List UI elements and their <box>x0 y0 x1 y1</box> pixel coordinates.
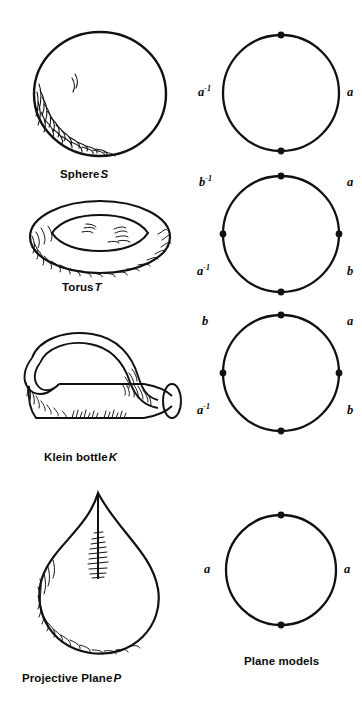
edge-label-letter: a <box>347 85 353 99</box>
torus-plane-model-label-upper-right: a <box>347 176 353 189</box>
projective-plane-plane-model <box>222 511 340 629</box>
plane-model-vertex <box>278 148 285 155</box>
klein-bottle-drawing <box>12 322 190 434</box>
edge-label-exponent: -1 <box>203 402 210 411</box>
torus-plane-model-label-lower-right: b <box>347 265 353 278</box>
sphere-plane-model-label-right: a <box>347 86 353 99</box>
sphere-drawing <box>26 26 176 166</box>
torus-caption-text: Torus <box>62 281 94 293</box>
plane-model-vertex <box>220 370 227 377</box>
klein-bottle-plane-model <box>219 311 343 435</box>
torus-plane-model <box>219 172 343 296</box>
sphere-caption-symbol: S <box>100 168 109 180</box>
plane-model-vertex <box>278 512 285 519</box>
sphere-plane-model <box>219 31 343 155</box>
projective-plane-caption: Projective PlaneP <box>22 672 121 684</box>
edge-label-letter: b <box>347 264 353 278</box>
plane-model-vertex <box>278 312 285 319</box>
plane-models-title: Plane models <box>244 655 319 667</box>
klein-bottle-plane-model-label-lower-right: b <box>347 404 353 417</box>
klein-bottle-caption: Klein bottleK <box>44 451 117 463</box>
edge-label-letter: b <box>347 403 353 417</box>
klein-bottle-plane-model-label-lower-left: a-1 <box>197 404 210 417</box>
edge-label-exponent: -1 <box>204 84 211 93</box>
sphere-caption: SphereS <box>60 168 108 180</box>
torus-caption-symbol: T <box>94 281 102 293</box>
edge-label-letter: a <box>347 175 353 189</box>
klein-bottle-plane-model-label-upper-right: a <box>347 315 353 328</box>
plane-model-vertex <box>278 32 285 39</box>
edge-label-letter: a <box>347 314 353 328</box>
edge-label-letter: b <box>202 314 208 328</box>
torus-plane-model-label-upper-left: b-1 <box>199 176 212 189</box>
projective-plane-plane-model-label-right: a <box>344 563 350 576</box>
plane-model-vertex <box>336 231 343 238</box>
plane-model-vertex <box>278 173 285 180</box>
sphere-plane-model-label-left: a-1 <box>198 86 211 99</box>
klein-bottle-caption-symbol: K <box>108 451 117 463</box>
plane-model-vertex <box>336 370 343 377</box>
plane-model-vertex <box>278 622 285 629</box>
torus-drawing <box>22 196 182 280</box>
klein-bottle-plane-model-label-upper-left: b <box>202 315 208 328</box>
plane-model-vertex <box>278 428 285 435</box>
sphere-caption-text: Sphere <box>60 168 100 180</box>
edge-label-exponent: -1 <box>205 174 212 183</box>
edge-label-exponent: -1 <box>203 263 210 272</box>
projective-plane-caption-symbol: P <box>112 672 121 684</box>
klein-bottle-caption-text: Klein bottle <box>44 451 108 463</box>
plane-model-vertex <box>220 231 227 238</box>
plane-model-vertex <box>278 289 285 296</box>
torus-plane-model-label-lower-left: a-1 <box>197 265 210 278</box>
topology-figure: SphereS <box>0 0 362 708</box>
projective-plane-plane-model-label-left: a <box>204 563 210 576</box>
projective-plane-drawing <box>24 487 184 663</box>
edge-label-letter: a <box>344 562 350 576</box>
projective-plane-caption-text: Projective Plane <box>22 672 112 684</box>
edge-label-letter: a <box>204 562 210 576</box>
torus-caption: TorusT <box>62 281 102 293</box>
